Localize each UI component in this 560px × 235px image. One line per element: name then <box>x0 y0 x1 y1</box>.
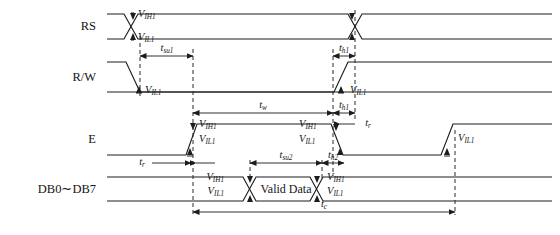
tr-e-label: tr <box>365 117 371 129</box>
db-close-vih1-label: VIH1 <box>327 171 345 183</box>
valid-data-label: Valid Data <box>261 182 313 196</box>
rw-vil1-label: VIL1 <box>145 84 161 96</box>
tsu2-label: tsu2 <box>280 149 293 161</box>
tr-db-label: tr <box>139 156 145 168</box>
timing-measure-th1-rs: th1 <box>333 42 355 56</box>
tsu1-label: tsu1 <box>161 42 174 54</box>
e-level-markers <box>187 123 450 156</box>
th1-e-label: th1 <box>339 99 349 111</box>
db-open-vih1-label: VIH1 <box>206 171 224 183</box>
signal-waveform-rs <box>107 14 552 39</box>
tw-label: tw <box>259 99 267 111</box>
timing-measure-th1-e: th1 <box>333 99 355 113</box>
signal-waveform-rw <box>107 62 552 92</box>
rs-vih1-label: VIH1 <box>138 8 156 20</box>
timing-diagram-figure: RS R/W E DB0∼DB7 VIH1 VIL1 <box>0 0 560 235</box>
signal-label-rs: RS <box>81 19 96 33</box>
e-rise-vih1-label: VIH1 <box>199 118 217 130</box>
timing-measure-tr-db: tr <box>139 156 215 168</box>
timing-measure-tr-e: tr <box>340 117 371 129</box>
timing-diagram-svg: RS R/W E DB0∼DB7 VIH1 VIL1 <box>0 0 560 235</box>
e-fall-vih1-label: VIH1 <box>299 118 317 130</box>
th1-rs-label: th1 <box>339 42 349 54</box>
e-rise-vil1-label: VIL1 <box>199 133 215 145</box>
rw-right-vil1-label: VIL1 <box>350 84 366 96</box>
timing-measure-tsu1: tsu1 <box>140 42 193 56</box>
tc-label: tc <box>321 198 328 210</box>
timing-measure-tw: tw <box>193 99 333 113</box>
db-close-vil1-label: VIL1 <box>327 185 343 197</box>
e-end-vil1-label: VIL1 <box>458 132 474 144</box>
db-open-vil1-label: VIL1 <box>208 185 224 197</box>
signal-label-e: E <box>88 132 96 146</box>
signal-label-rw: R/W <box>72 70 96 84</box>
e-fall-vil1-label: VIL1 <box>299 133 315 145</box>
timing-measure-tsu2: tsu2 <box>250 149 322 163</box>
th2-label: th2 <box>328 149 339 161</box>
signal-label-db: DB0∼DB7 <box>38 182 96 196</box>
